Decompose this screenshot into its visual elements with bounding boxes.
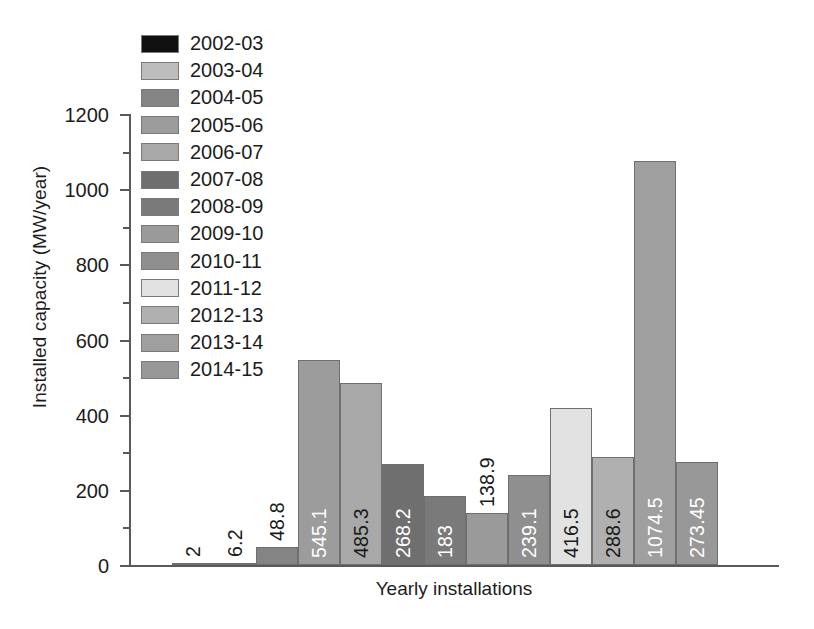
legend-item[interactable]: 2005-06	[141, 112, 263, 139]
bar[interactable]: 545.1	[298, 360, 340, 565]
legend-label: 2003-04	[190, 59, 263, 82]
y-tick-label: 0	[98, 555, 109, 578]
y-tick-label: 800	[76, 254, 109, 277]
legend-swatch	[141, 306, 179, 324]
bar[interactable]: 485.3	[340, 383, 382, 565]
y-tick-major: 200	[120, 490, 129, 492]
legend-label: 2010-11	[190, 250, 262, 273]
bar[interactable]: 268.2	[382, 464, 424, 565]
legend-label: 2012-13	[190, 304, 263, 327]
bar-chart: Installed capacity (MW/year) 02004006008…	[0, 0, 814, 629]
y-tick-label: 600	[76, 329, 109, 352]
legend-swatch	[141, 225, 179, 243]
legend-swatch	[141, 143, 179, 161]
legend-swatch	[141, 171, 179, 189]
legend-label: 2007-08	[190, 168, 263, 191]
y-tick-major: 600	[120, 340, 129, 342]
bar-value-label: 48.8	[266, 502, 289, 541]
legend-item[interactable]: 2010-11	[141, 248, 263, 275]
y-tick-major: 800	[120, 264, 129, 266]
legend-label: 2014-15	[190, 358, 263, 381]
legend-label: 2011-12	[190, 277, 262, 300]
y-tick-minor	[123, 302, 129, 304]
y-tick-minor	[123, 377, 129, 379]
y-tick-label: 400	[76, 404, 109, 427]
bar[interactable]: 48.8	[256, 547, 298, 565]
legend-item[interactable]: 2007-08	[141, 166, 263, 193]
bar-value-label: 183	[434, 525, 457, 558]
bar-value-label: 239.1	[518, 508, 541, 558]
legend-swatch	[141, 279, 179, 297]
bar-value-label: 2	[182, 546, 205, 557]
bar-value-label: 485.3	[350, 508, 373, 558]
legend-item[interactable]: 2004-05	[141, 84, 263, 111]
legend-label: 2004-05	[190, 86, 263, 109]
legend-label: 2008-09	[190, 195, 263, 218]
legend-item[interactable]: 2006-07	[141, 139, 263, 166]
legend-item[interactable]: 2008-09	[141, 193, 263, 220]
bar-value-label: 138.9	[476, 457, 499, 507]
bar[interactable]: 288.6	[592, 457, 634, 565]
bar[interactable]: 2	[172, 563, 214, 565]
bar[interactable]: 239.1	[508, 475, 550, 565]
legend-swatch	[141, 361, 179, 379]
legend-label: 2002-03	[190, 32, 263, 55]
y-tick-minor	[123, 227, 129, 229]
legend-item[interactable]: 2013-14	[141, 329, 263, 356]
legend-item[interactable]: 2003-04	[141, 57, 263, 84]
x-axis-title: Yearly installations	[129, 578, 779, 600]
y-tick-major: 1200	[120, 114, 129, 116]
y-tick-label: 1200	[65, 104, 110, 127]
y-tick-label: 1000	[65, 179, 110, 202]
bar[interactable]: 138.9	[466, 513, 508, 565]
bar[interactable]: 1074.5	[634, 161, 676, 565]
y-axis-title: Installed capacity (MW/year)	[29, 67, 51, 507]
legend: 2002-032003-042004-052005-062006-072007-…	[141, 30, 263, 383]
legend-label: 2013-14	[190, 331, 263, 354]
legend-swatch	[141, 116, 179, 134]
y-tick-major: 400	[120, 415, 129, 417]
bar-value-label: 1074.5	[644, 497, 667, 558]
y-axis-line	[129, 114, 131, 565]
legend-swatch	[141, 198, 179, 216]
legend-item[interactable]: 2011-12	[141, 275, 263, 302]
legend-item[interactable]: 2014-15	[141, 356, 263, 383]
bar[interactable]: 183	[424, 496, 466, 565]
legend-swatch	[141, 35, 179, 53]
legend-swatch	[141, 334, 179, 352]
bar[interactable]: 273.45	[676, 462, 718, 565]
y-tick-minor	[123, 527, 129, 529]
y-tick-minor	[123, 152, 129, 154]
legend-item[interactable]: 2009-10	[141, 220, 263, 247]
bar-value-label: 273.45	[686, 497, 709, 558]
legend-label: 2006-07	[190, 141, 263, 164]
legend-label: 2009-10	[190, 222, 263, 245]
legend-swatch	[141, 62, 179, 80]
legend-swatch	[141, 89, 179, 107]
y-tick-major: 1000	[120, 189, 129, 191]
y-tick-label: 200	[76, 479, 109, 502]
bar-value-label: 416.5	[560, 508, 583, 558]
bar[interactable]: 416.5	[550, 408, 592, 565]
legend-label: 2005-06	[190, 114, 263, 137]
legend-item[interactable]: 2012-13	[141, 302, 263, 329]
legend-item[interactable]: 2002-03	[141, 30, 263, 57]
y-tick-minor	[123, 452, 129, 454]
legend-swatch	[141, 252, 179, 270]
bar-value-label: 268.2	[392, 508, 415, 558]
y-tick-major: 0	[120, 565, 129, 567]
bar-value-label: 288.6	[602, 508, 625, 558]
bar[interactable]: 6.2	[214, 563, 256, 565]
bar-value-label: 545.1	[308, 508, 331, 558]
bar-value-label: 6.2	[224, 529, 247, 557]
